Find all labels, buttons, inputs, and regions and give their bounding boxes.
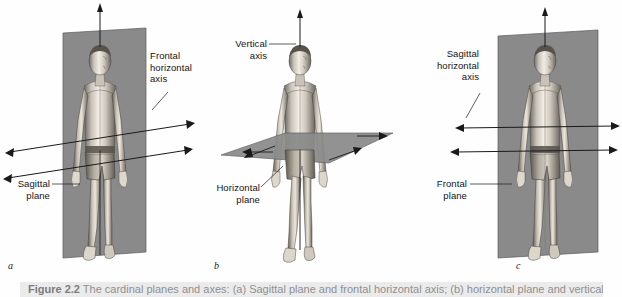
label-line-1: Sagittal (447, 48, 479, 59)
panel-letter-c: c (516, 260, 520, 271)
label-line-1: Frontal (150, 50, 180, 61)
label-line-3: axis (150, 73, 167, 84)
label-frontal-horizontal-axis: Frontalhorizontalaxis (150, 50, 206, 85)
panel-a: Frontalhorizontalaxis Sagittalplane a (0, 0, 207, 275)
sagittal-horizontal-axis-leader (466, 93, 480, 118)
figure-caption: Figure 2.2 The cardinal planes and axes:… (28, 283, 603, 296)
panel-c-illustration (407, 0, 622, 275)
label-sagittal-plane: Sagittalplane (0, 178, 50, 201)
label-line-1: Vertical (235, 38, 267, 49)
label-line-2: plane (443, 190, 467, 201)
label-line-2: axis (250, 50, 267, 61)
label-frontal-plane: Frontalplane (407, 178, 467, 201)
frontal-horizontal-axis-leader (152, 92, 168, 110)
label-line-2: plane (26, 190, 50, 201)
anatomical-planes-figure: Frontalhorizontalaxis Sagittalplane a (0, 0, 622, 297)
label-horizontal-plane: Horizontalplane (207, 182, 260, 205)
figure-caption-clip: Figure 2.2 The cardinal planes and axes:… (28, 283, 603, 297)
panel-a-illustration (0, 0, 207, 275)
figure-caption-text: The cardinal planes and axes: (a) Sagitt… (83, 283, 603, 295)
label-line-2: plane (236, 194, 260, 205)
human-figure-lower (283, 150, 315, 262)
label-line-1: Horizontal (216, 182, 260, 193)
panel-letter-a: a (8, 260, 13, 271)
panel-b: Verticalaxis Horizontalplane b (207, 0, 407, 275)
label-line-3: axis (462, 71, 479, 82)
panel-c: Sagittalhorizontalaxis Frontalplane c (407, 0, 622, 275)
label-sagittal-horizontal-axis: Sagittalhorizontalaxis (407, 48, 479, 83)
label-line-2: horizontal (150, 62, 192, 73)
figure-caption-band: Figure 2.2 The cardinal planes and axes:… (20, 282, 603, 297)
label-line-2: horizontal (437, 60, 479, 71)
panel-letter-b: b (214, 260, 219, 271)
label-line-1: Frontal (437, 178, 467, 189)
label-vertical-axis: Verticalaxis (207, 38, 267, 61)
figure-caption-label: Figure 2.2 (28, 283, 80, 295)
label-line-1: Sagittal (18, 178, 50, 189)
